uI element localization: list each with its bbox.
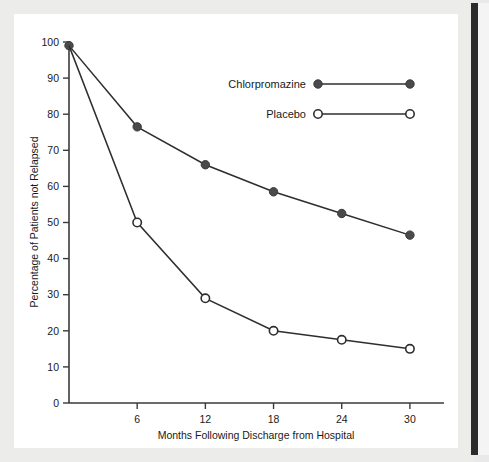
legend-label-placebo: Placebo	[266, 108, 306, 120]
x-tick-label-24: 24	[336, 413, 348, 425]
y-tick-label-30: 30	[47, 288, 59, 300]
point-placebo-30	[406, 345, 414, 353]
point-chlorpromazine-30	[406, 231, 414, 239]
x-tick-label-18: 18	[268, 413, 280, 425]
x-tick-label-12: 12	[200, 413, 212, 425]
y-tick-label-90: 90	[47, 72, 59, 84]
y-tick-label-100: 100	[41, 36, 59, 48]
y-axis-tick-labels: 0102030405060708090100	[41, 36, 59, 409]
point-chlorpromazine-12	[201, 161, 209, 169]
legend-label-chlorpromazine: Chlorpromazine	[228, 78, 306, 90]
right-edge-shadow	[478, 3, 489, 455]
point-placebo-24	[338, 336, 346, 344]
legend-marker-placebo-1	[406, 110, 414, 118]
point-placebo-18	[269, 327, 277, 335]
y-tick-label-0: 0	[53, 397, 59, 409]
series-line-chlorpromazine	[69, 46, 410, 236]
right-edge-accent-bar	[471, 3, 478, 455]
y-axis-ticks	[63, 42, 69, 403]
legend-entry-chlorpromazine: Chlorpromazine	[228, 78, 414, 90]
relapse-line-chart: 0102030405060708090100 612182430 Chlorpr…	[14, 14, 458, 448]
series-line-placebo	[69, 46, 410, 349]
y-tick-label-10: 10	[47, 361, 59, 373]
chart-panel: 0102030405060708090100 612182430 Chlorpr…	[14, 14, 458, 448]
x-tick-label-6: 6	[134, 413, 140, 425]
x-axis-ticks	[137, 403, 410, 409]
point-chlorpromazine-18	[269, 188, 277, 196]
x-axis-title: Months Following Discharge from Hospital	[158, 429, 355, 441]
point-chlorpromazine-24	[338, 209, 346, 217]
y-tick-label-50: 50	[47, 216, 59, 228]
x-axis-tick-labels: 612182430	[134, 413, 416, 425]
y-tick-label-60: 60	[47, 180, 59, 192]
series-placebo	[69, 46, 414, 353]
legend-marker-placebo-0	[314, 110, 322, 118]
y-tick-label-40: 40	[47, 252, 59, 264]
legend-marker-chlorpromazine-1	[406, 80, 414, 88]
page-background: 0102030405060708090100 612182430 Chlorpr…	[0, 0, 489, 462]
y-tick-label-70: 70	[47, 144, 59, 156]
y-axis-title: Percentage of Patients not Relapsed	[28, 136, 40, 307]
series-chlorpromazine	[65, 41, 414, 239]
point-chlorpromazine-6	[133, 123, 141, 131]
y-tick-label-20: 20	[47, 325, 59, 337]
point-placebo-6	[133, 218, 141, 226]
x-tick-label-30: 30	[404, 413, 416, 425]
y-tick-label-80: 80	[47, 108, 59, 120]
chart-legend: ChlorpromazinePlacebo	[228, 78, 414, 120]
legend-entry-placebo: Placebo	[266, 108, 414, 120]
point-placebo-12	[201, 294, 209, 302]
legend-marker-chlorpromazine-0	[314, 80, 322, 88]
